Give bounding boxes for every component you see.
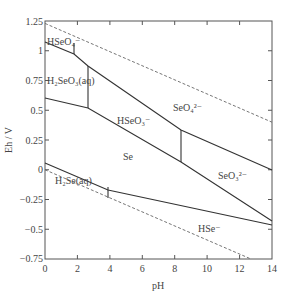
se4-se0-boundary xyxy=(45,98,272,221)
label-hse: HSe⁻ xyxy=(198,223,221,234)
y-tick-neg0.25: −0.25 xyxy=(20,194,43,205)
plot-frame xyxy=(45,21,272,259)
label-h2se: H₂Se(aq) xyxy=(55,175,92,187)
x-tick-12: 12 xyxy=(235,263,245,274)
y-tick-0.25: 0.25 xyxy=(26,135,44,146)
x-tick-14: 14 xyxy=(267,263,277,274)
label-se: Se xyxy=(123,151,134,162)
x-tick-6: 6 xyxy=(140,263,145,274)
label-hseo3: HSeO₃⁻ xyxy=(117,115,150,126)
y-tick-0.75: 0.75 xyxy=(26,75,44,86)
region-labels: HSeO₄⁻ H₂SeO₃(aq) HSeO₃⁻ SeO₄²⁻ Se SeO₃²… xyxy=(47,36,247,234)
label-seo3: SeO₃²⁻ xyxy=(218,170,247,181)
y-tick-neg0.75: −0.75 xyxy=(20,253,43,264)
phase-boundaries xyxy=(45,42,272,225)
y-tick-1: 1 xyxy=(38,45,43,56)
x-tick-2: 2 xyxy=(75,263,80,274)
label-hseo4: HSeO₄⁻ xyxy=(47,36,80,47)
y-tick-labels: 1.25 1 0.75 0.5 0.25 0 −0.25 −0.5 −0.75 xyxy=(20,16,43,265)
y-axis-title: Eh / V xyxy=(3,126,14,153)
x-tick-0: 0 xyxy=(43,263,48,274)
y-tick-neg0.5: −0.5 xyxy=(25,224,43,235)
y-tick-0: 0 xyxy=(38,164,43,175)
x-tick-4: 4 xyxy=(107,263,112,274)
x-tick-labels: 0 2 4 6 8 10 12 14 xyxy=(43,263,278,274)
x-axis-title: pH xyxy=(152,280,164,291)
label-seo4: SeO₄²⁻ xyxy=(173,102,202,113)
x-tick-10: 10 xyxy=(202,263,212,274)
pourbaix-diagram: 0 2 4 6 8 10 12 14 1.25 1 0.75 0.5 0.25 … xyxy=(0,0,288,296)
label-h2seo3: H₂SeO₃(aq) xyxy=(47,75,95,87)
x-tick-8: 8 xyxy=(172,263,177,274)
y-tick-1.25: 1.25 xyxy=(26,16,44,27)
y-tick-0.5: 0.5 xyxy=(31,105,44,116)
